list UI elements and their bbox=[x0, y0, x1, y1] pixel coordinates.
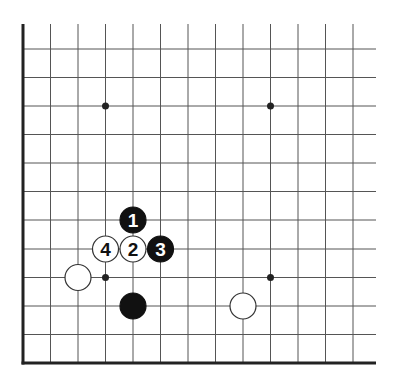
white-stone-2: 2 bbox=[120, 236, 146, 262]
star-point bbox=[267, 103, 274, 110]
board-grid bbox=[22, 24, 377, 365]
move-number-label: 2 bbox=[128, 239, 139, 260]
star-point bbox=[102, 103, 109, 110]
white-stone bbox=[230, 293, 256, 319]
star-point bbox=[267, 274, 274, 281]
black-stone-1: 1 bbox=[120, 207, 146, 233]
move-number-label: 3 bbox=[155, 239, 166, 260]
star-point bbox=[102, 274, 109, 281]
white-stone bbox=[65, 265, 91, 291]
go-board: 1234 bbox=[0, 0, 397, 382]
white-stone-4: 4 bbox=[93, 236, 119, 262]
move-number-label: 4 bbox=[100, 239, 111, 260]
move-number-label: 1 bbox=[128, 210, 139, 231]
black-stone-3: 3 bbox=[148, 236, 174, 262]
black-stone bbox=[120, 293, 146, 319]
